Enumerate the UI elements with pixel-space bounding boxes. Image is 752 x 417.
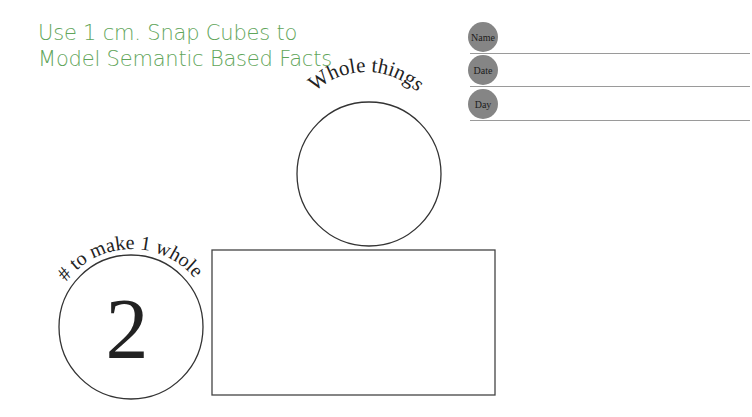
parts-label: # to make 1 whole: [52, 231, 208, 284]
whole-things-label: Whole things: [303, 53, 429, 96]
model-box[interactable]: [212, 250, 495, 395]
parts-number: 2: [106, 281, 149, 377]
worksheet-drawing: Whole things # to make 1 whole 2: [0, 0, 752, 417]
whole-things-circle[interactable]: [297, 102, 441, 246]
